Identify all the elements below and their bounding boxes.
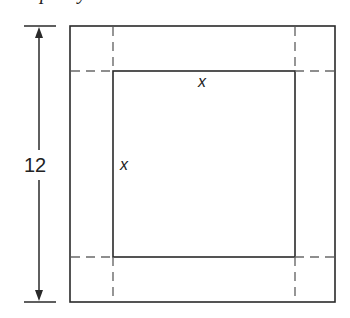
inner-square [113,71,295,257]
arrowhead-up-icon [35,27,43,38]
inner-side-label-left: x [120,157,128,173]
dimension-label-12: 12 [24,155,46,175]
arrowhead-down-icon [35,290,43,301]
box-net-diagram [0,0,350,318]
inner-side-label-top: x [198,74,206,90]
